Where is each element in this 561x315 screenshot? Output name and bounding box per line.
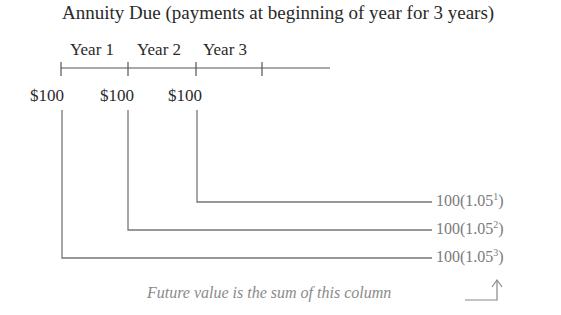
sum-arrow-icon	[465, 280, 502, 300]
diagram-title: Annuity Due (payments at beginning of ye…	[62, 2, 494, 24]
year-label-1: Year 1	[70, 40, 114, 60]
payment-1: $100	[30, 86, 64, 106]
payment-3: $100	[168, 86, 202, 106]
compounding-connectors	[62, 110, 432, 258]
future-value-2: 100(1.052)	[436, 220, 504, 238]
timeline-axis	[61, 62, 330, 76]
year-label-2: Year 2	[137, 40, 181, 60]
caption: Future value is the sum of this column	[147, 284, 391, 302]
future-value-1: 100(1.051)	[436, 192, 504, 210]
future-value-3: 100(1.053)	[436, 248, 504, 266]
year-label-3: Year 3	[203, 40, 247, 60]
payment-2: $100	[100, 86, 134, 106]
